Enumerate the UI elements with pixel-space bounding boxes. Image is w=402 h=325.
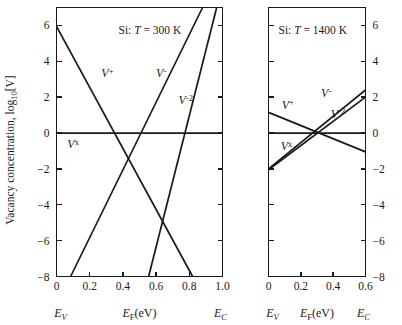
plot-frame-left	[57, 8, 223, 277]
x-tick-label-right-0: 0	[266, 280, 272, 292]
x-tick-label-left-5: 1.0	[215, 280, 230, 292]
y-tick-label-right-0: −8	[373, 271, 385, 283]
x-tick-label-right-2: 0.4	[326, 280, 341, 292]
y-tick-label-left-4: 0	[44, 127, 50, 139]
y-tick-label-left-5: 2	[44, 91, 50, 103]
y-tick-label-left-2: −4	[37, 199, 49, 211]
band-edge-ev-right: EV	[265, 306, 280, 322]
y-tick-label-right-2: −4	[373, 199, 385, 211]
y-tick-label-left-0: −8	[37, 271, 49, 283]
x-tick-label-right-1: 0.2	[294, 280, 309, 292]
y-tick-label-right-4: 0	[373, 127, 379, 139]
x-tick-label-left-1: 0.2	[83, 280, 98, 292]
y-tick-label-right-5: 2	[373, 91, 379, 103]
y-tick-label-right-7: 6	[373, 19, 379, 31]
curves-right: V+VxV-V-2	[269, 86, 366, 170]
x-tick-label-left-3: 0.6	[149, 280, 164, 292]
x-tick-label-left-0: 0	[54, 280, 60, 292]
x-axis-title-left: EF(eV)	[121, 306, 156, 322]
band-edge-ev-left: EV	[53, 306, 68, 322]
y-tick-label-right-1: −6	[373, 235, 385, 247]
curve-label-right-V2: V-2	[331, 106, 345, 121]
x-tick-label-left-2: 0.4	[116, 280, 131, 292]
curve-label-left-V: V+	[101, 66, 113, 81]
y-tick-label-left-7: 6	[44, 19, 50, 31]
curve-label-left-Vx: Vx	[67, 137, 79, 152]
x-tick-label-right-3: 0.6	[358, 280, 373, 292]
curve-left-V	[57, 26, 193, 276]
y-tick-label-right-6: 4	[373, 55, 379, 67]
panel-right: 00.20.40.6−8−6−4−20246V+VxV-V-2Si: T = 1…	[265, 8, 385, 322]
curve-label-left-V: V-	[156, 66, 166, 81]
x-axis-title-right: EF(eV)	[299, 306, 334, 322]
panel-left: 00.20.40.60.81.0−8−6−4−20246V+VxV-V-2Si:…	[37, 8, 230, 322]
vacancy-concentration-chart: 00.20.40.60.81.0−8−6−4−20246V+VxV-V-2Si:…	[0, 0, 402, 325]
figure-container: 00.20.40.60.81.0−8−6−4−20246V+VxV-V-2Si:…	[0, 0, 402, 325]
y-axis-title: Vacancy concentration, log10[V]	[4, 75, 19, 224]
y-tick-label-left-6: 4	[44, 55, 50, 67]
panel-title-right: Si: T = 1400 K	[279, 24, 348, 36]
curve-label-right-V: V-	[321, 86, 331, 101]
y-tick-label-right-3: −2	[373, 163, 385, 175]
band-edge-ec-left: EC	[213, 306, 227, 322]
y-tick-label-left-1: −6	[37, 235, 49, 247]
panel-title-left: Si: T = 300 K	[119, 24, 182, 36]
band-edge-ec-right: EC	[356, 306, 370, 322]
x-tick-label-left-4: 0.8	[182, 280, 197, 292]
y-tick-label-left-3: −2	[37, 163, 49, 175]
curve-label-right-V: V+	[282, 97, 294, 112]
curves-left: V+VxV-V-2	[57, 8, 223, 277]
curve-label-left-V2: V-2	[179, 93, 193, 108]
